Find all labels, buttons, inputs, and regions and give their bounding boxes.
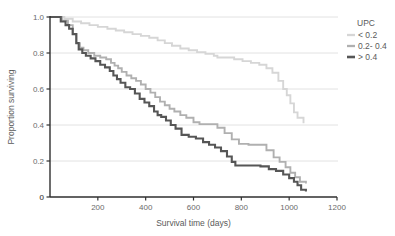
y-tick-label-2: 0.4 bbox=[33, 121, 45, 130]
x-tick-label-0: 0 bbox=[40, 193, 45, 202]
series-line-0-2-0-4 bbox=[50, 17, 306, 184]
series-line--0-4 bbox=[50, 17, 306, 192]
survival-curve-chart: 00.20.40.60.81.0020040060080010001200Sur… bbox=[0, 0, 395, 236]
x-tick-label-4: 800 bbox=[235, 203, 249, 212]
legend: UPC< 0.20.2- 0.4> 0.4 bbox=[347, 18, 387, 62]
y-tick-label-5: 1.0 bbox=[33, 13, 45, 22]
x-tick-label-1: 200 bbox=[91, 203, 105, 212]
x-axis-title: Survival time (days) bbox=[156, 218, 231, 228]
y-tick-label-1: 0.2 bbox=[33, 157, 45, 166]
series-line--0-2 bbox=[50, 17, 304, 123]
x-tick-label-6: 1200 bbox=[328, 203, 346, 212]
legend-title: UPC bbox=[357, 18, 375, 28]
legend-label-0: < 0.2 bbox=[358, 30, 377, 40]
series-group bbox=[50, 17, 306, 192]
gridlines bbox=[50, 17, 338, 161]
legend-label-1: 0.2- 0.4 bbox=[358, 41, 387, 51]
y-tick-label-3: 0.6 bbox=[33, 85, 45, 94]
y-tick-label-4: 0.8 bbox=[33, 49, 45, 58]
x-tick-label-5: 1000 bbox=[280, 203, 298, 212]
x-tick-label-3: 600 bbox=[187, 203, 201, 212]
y-axis-ticks: 00.20.40.60.81.0 bbox=[33, 13, 50, 202]
x-axis-ticks: 020040060080010001200 bbox=[40, 193, 347, 212]
x-tick-label-2: 400 bbox=[139, 203, 153, 212]
legend-label-2: > 0.4 bbox=[358, 52, 377, 62]
chart-canvas: 00.20.40.60.81.0020040060080010001200Sur… bbox=[0, 0, 395, 236]
y-axis-title: Proportion surviving bbox=[6, 69, 16, 144]
